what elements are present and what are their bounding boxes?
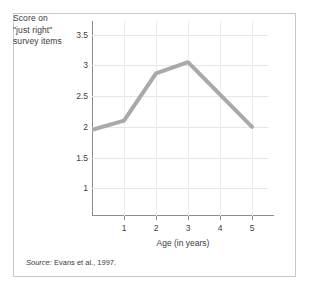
data-series-line	[92, 21, 268, 216]
y-tick-label: 1.5	[76, 153, 88, 163]
x-tick-mark	[124, 216, 125, 220]
x-tick-label: 3	[186, 223, 191, 233]
x-tick-label: 5	[250, 223, 255, 233]
y-axis-caption-line-1: Score on	[13, 13, 91, 25]
x-tick-mark	[220, 216, 221, 220]
y-tick-label: 2	[83, 122, 88, 132]
y-tick-label: 2.5	[76, 91, 88, 101]
y-tick-label: 3	[83, 60, 88, 70]
x-tick-mark	[156, 216, 157, 220]
x-tick-label: 4	[218, 223, 223, 233]
x-tick-mark	[188, 216, 189, 220]
source-note: Source: Evans et al., 1997.	[26, 258, 116, 267]
x-tick-label: 2	[154, 223, 159, 233]
source-citation: Evans et al., 1997.	[54, 258, 116, 267]
x-axis-title: Age (in years)	[92, 238, 274, 248]
y-tick-label: 1	[83, 183, 88, 193]
y-tick-label: 3.5	[76, 30, 88, 40]
plot-area: 11.522.533.5 12345	[92, 21, 268, 216]
source-label: Source:	[26, 258, 52, 267]
x-tick-label: 1	[122, 223, 127, 233]
x-tick-mark	[252, 216, 253, 220]
